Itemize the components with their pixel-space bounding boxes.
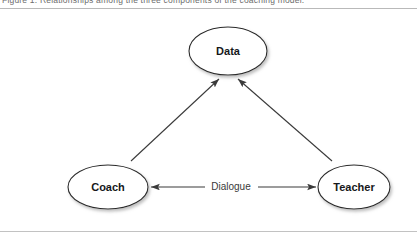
figure-bottom-rule: [0, 231, 417, 232]
diagram-svg: Dialogue Data Coach Teacher: [0, 9, 417, 231]
edge-coach-teacher-dialogue: Dialogue: [151, 181, 316, 192]
node-teacher[interactable]: Teacher: [318, 165, 390, 209]
figure-panel: Figure 1. Relationships among the three …: [0, 0, 417, 237]
edge-coach-to-data: [131, 79, 219, 161]
node-data[interactable]: Data: [189, 27, 267, 75]
node-teacher-label: Teacher: [333, 181, 375, 193]
diagram-canvas: Dialogue Data Coach Teacher: [0, 9, 417, 231]
edge-teacher-to-data-line: [238, 79, 332, 161]
edge-teacher-to-data: [238, 79, 332, 161]
node-coach-label: Coach: [91, 181, 125, 193]
node-coach[interactable]: Coach: [68, 165, 148, 209]
edge-label-dialogue: Dialogue: [211, 181, 251, 192]
figure-caption-strip: Figure 1. Relationships among the three …: [0, 0, 417, 7]
node-data-label: Data: [216, 45, 241, 57]
figure-caption-text: Figure 1. Relationships among the three …: [0, 0, 417, 7]
edge-coach-to-data-line: [131, 79, 219, 161]
